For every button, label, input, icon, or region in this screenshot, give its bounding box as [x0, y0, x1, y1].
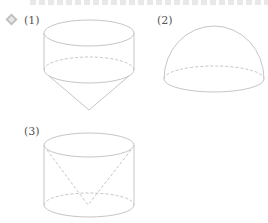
figure-2-hemisphere — [164, 26, 264, 92]
figure-1-cylinder-cone — [44, 20, 134, 110]
solid-figures-drawing — [0, 0, 268, 223]
figure-3-cylinder-with-cone — [44, 133, 134, 217]
